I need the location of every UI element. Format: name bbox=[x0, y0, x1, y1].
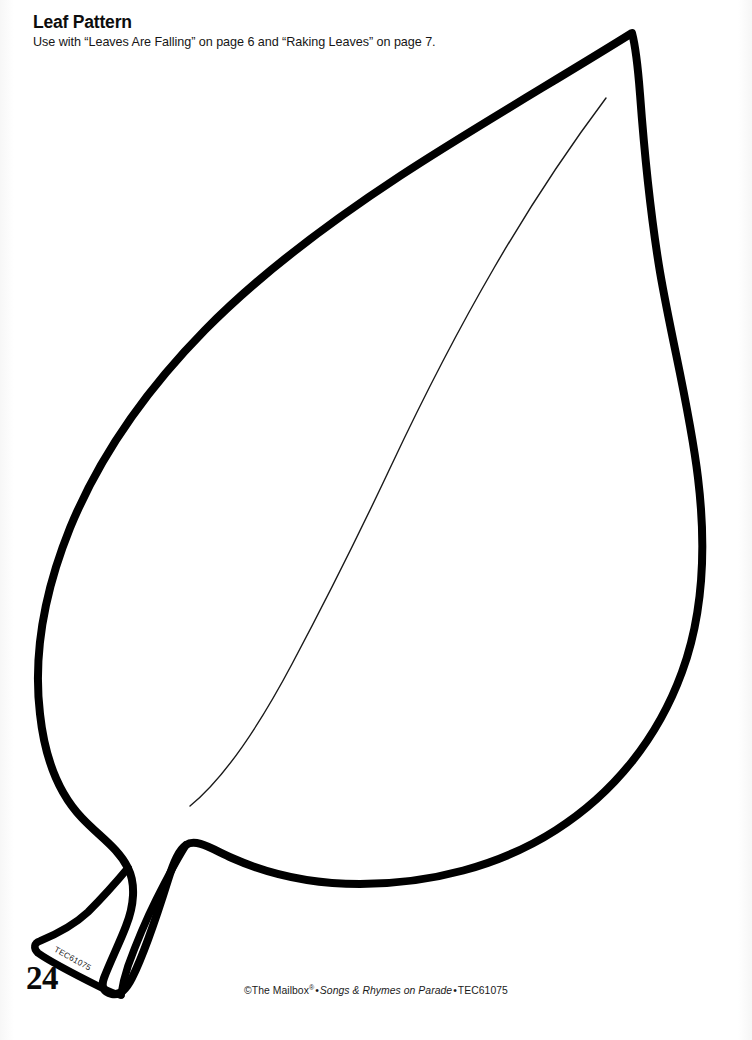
page-title: Leaf Pattern bbox=[33, 13, 633, 33]
footer-credit: ©The Mailbox®•Songs & Rhymes on Parade•T… bbox=[0, 985, 752, 997]
footer-copyright: ©The Mailbox bbox=[244, 985, 309, 996]
page-sheet bbox=[0, 0, 752, 1040]
page-subtitle: Use with “Leaves Are Falling” on page 6 … bbox=[33, 35, 633, 49]
header: Leaf Pattern Use with “Leaves Are Fallin… bbox=[33, 13, 633, 49]
footer-item-code: TEC61075 bbox=[458, 985, 508, 996]
footer-publication-title: Songs & Rhymes on Parade bbox=[320, 985, 452, 996]
